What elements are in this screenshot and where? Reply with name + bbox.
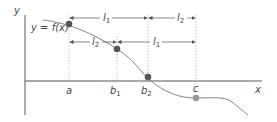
function-curve	[43, 20, 248, 115]
curve-label: y = f(x)	[30, 22, 69, 33]
interval-l2-top: l2	[177, 12, 184, 25]
point-b1	[114, 46, 121, 53]
y-axis-label: y	[13, 5, 21, 16]
interval-l1-top: l1	[103, 12, 110, 25]
interval-l1-bottom: l1	[153, 36, 160, 49]
label-b2: b2	[141, 85, 152, 98]
guide-lines	[69, 15, 196, 81]
point-c	[193, 95, 200, 102]
function-interval-diagram: y x y = f(x) l1 l2 l2 l1 a b1 b2 c	[0, 0, 277, 122]
label-a: a	[66, 85, 72, 96]
x-axis-label: x	[254, 84, 261, 95]
label-b1: b1	[110, 85, 121, 98]
point-a	[66, 21, 73, 28]
label-c: c	[193, 83, 199, 94]
point-b2	[145, 74, 152, 81]
diagram-canvas: y x y = f(x) l1 l2 l2 l1 a b1 b2 c	[0, 0, 277, 122]
